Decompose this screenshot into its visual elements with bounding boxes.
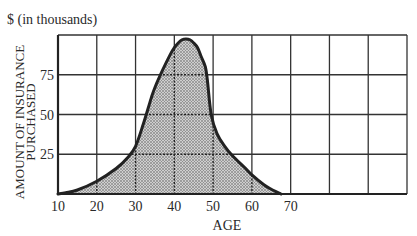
x-axis-title: AGE [213,218,242,233]
x-tick-label: 70 [284,199,298,214]
y-axis-title: AMOUNT OF INSURANCE PURCHASED [12,45,38,199]
y-tick-labels: 255075 [40,68,54,163]
x-tick-label: 60 [245,199,259,214]
chart: $ (in thousands) 255075 10203040506070 A… [0,0,417,236]
y-axis-title-line-2: PURCHASED [23,83,38,160]
x-tick-label: 30 [129,199,143,214]
x-tick-label: 20 [90,199,104,214]
y-tick-label: 50 [40,108,54,123]
x-tick-label: 40 [167,199,181,214]
x-tick-labels: 10203040506070 [51,199,298,214]
x-tick-label: 10 [51,199,65,214]
y-tick-label: 25 [40,147,54,162]
unit-label: $ (in thousands) [7,12,98,28]
x-tick-label: 50 [206,199,220,214]
y-tick-label: 75 [40,68,54,83]
